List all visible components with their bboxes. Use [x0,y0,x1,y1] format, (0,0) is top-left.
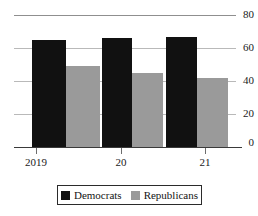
y-tick-label-80: 80 [243,9,254,20]
legend-label-republicans: Republicans [144,190,198,201]
black-square-icon [61,191,70,200]
legend-label-democrats: Democrats [74,190,122,201]
y-tick-label-20: 20 [243,108,254,119]
bar-republicans-2019 [66,66,100,147]
legend-item-democrats: Democrats [61,190,122,201]
bar-democrats-2019 [32,40,66,147]
x-axis-line [14,147,242,148]
bar-chart: 80 60 40 20 0 2019 20 21 Democrats Repub… [0,0,258,216]
x-tick-2019 [36,148,37,154]
bar-republicans-20 [132,73,163,147]
plot-area [14,15,236,147]
chart-legend: Democrats Republicans [57,185,202,205]
bar-republicans-21 [197,78,228,147]
x-category-label-20: 20 [116,156,127,168]
bar-democrats-21 [166,37,197,147]
x-tick-20 [121,148,122,154]
x-category-label-21: 21 [200,156,211,168]
gray-square-icon [131,191,140,200]
y-tick-label-60: 60 [243,42,254,53]
x-category-label-2019: 2019 [25,156,47,168]
gridline-80 [14,15,236,16]
y-tick-label-40: 40 [243,75,254,86]
bar-democrats-20 [102,38,132,147]
y-tick-label-0: 0 [249,137,255,148]
x-tick-21 [205,148,206,154]
legend-item-republicans: Republicans [131,190,198,201]
